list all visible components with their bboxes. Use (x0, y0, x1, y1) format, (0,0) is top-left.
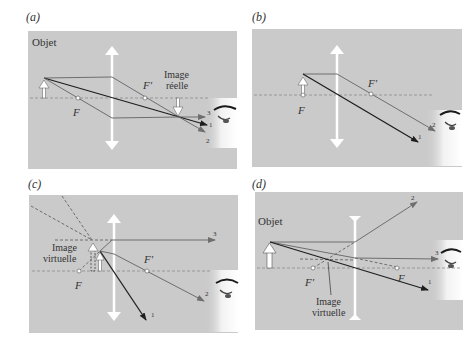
panel-b: F F′ 1 2 (252, 29, 462, 167)
eye-glow (205, 270, 238, 332)
focal-label-F: F (72, 106, 80, 118)
ray-label-1: 1 (418, 133, 422, 141)
ray-label-3: 3 (435, 249, 439, 257)
ray-label-3: 3 (213, 230, 217, 238)
ray-label-2: 2 (411, 194, 415, 202)
object-label: Objet (258, 215, 282, 227)
focal-point-Fprime (311, 266, 315, 270)
focal-point-Fprime (145, 269, 149, 273)
ray-label-2: 2 (432, 121, 436, 129)
focal-point-Fprime (369, 92, 373, 96)
object-label: Objet (32, 36, 56, 48)
ray-label-1: 1 (151, 311, 155, 319)
focal-label-Fprime: F′ (142, 79, 153, 91)
focal-label-F: F (397, 272, 405, 284)
focal-label-Fprime: F′ (304, 276, 315, 288)
focal-label-F: F (297, 104, 305, 116)
ray-label-1: 1 (428, 278, 432, 286)
image-label-line1: Image (316, 296, 342, 307)
focal-point-F (76, 96, 80, 100)
image-label-line1: Image (164, 69, 190, 80)
focal-point-F (301, 93, 305, 97)
focal-label-Fprime: F′ (143, 253, 154, 265)
ray-label-1: 1 (209, 121, 213, 129)
ray-label-2: 2 (205, 290, 209, 298)
focal-point-F (77, 269, 81, 273)
panel-c: Image virtuelle F F′ 3 2 1 (29, 195, 238, 333)
diagram-canvas: Objet F F′ Image réelle 3 1 2 F (0, 0, 475, 353)
eye-glow (425, 110, 462, 166)
image-label-line2: virtuelle (312, 307, 346, 318)
panel-a: Objet F F′ Image réelle 3 1 2 (28, 31, 237, 169)
focal-label-F: F (74, 279, 82, 291)
focal-label-Fprime: F′ (367, 77, 378, 89)
image-label-line2: réelle (166, 80, 189, 91)
ray-label-2: 2 (206, 137, 210, 145)
image-label-line2: virtuelle (43, 253, 77, 264)
focal-point-Fprime (143, 96, 147, 100)
panel-d: Objet F′ F Image virtuelle 2 3 1 (255, 192, 463, 330)
focal-point-F (395, 266, 399, 270)
image-label-line1: Image (52, 242, 78, 253)
ray-label-3: 3 (207, 109, 211, 117)
